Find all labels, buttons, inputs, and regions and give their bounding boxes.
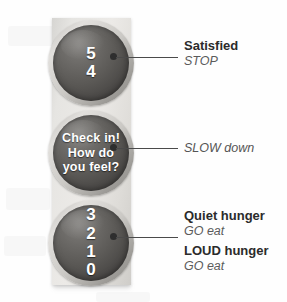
annotation-satisfied: Satisfied STOP <box>184 38 238 69</box>
leader-line-bottom <box>116 237 178 239</box>
lamp-bottom[interactable]: 3 2 1 0 <box>48 200 134 286</box>
lamp-bottom-line-4: 0 <box>86 261 96 279</box>
annotation-quiet-hunger-title: Quiet hunger <box>184 208 265 223</box>
lamp-bottom-line-3: 1 <box>86 243 96 261</box>
lamp-bottom-line-1: 3 <box>86 206 96 224</box>
lamp-bottom-line-2: 2 <box>86 225 96 243</box>
lamp-top-line-1: 5 <box>86 45 96 63</box>
annotation-loud-hunger-title: LOUD hunger <box>184 243 269 258</box>
background-artifact <box>6 188 50 210</box>
background-artifact <box>4 236 46 256</box>
leader-line-top <box>116 57 178 59</box>
lamp-top-line-2: 4 <box>86 63 96 81</box>
lamp-middle-line-3: you feel? <box>63 160 120 175</box>
annotation-loud-hunger-subtitle: GO eat <box>184 259 269 274</box>
lamp-top[interactable]: 5 4 <box>48 20 134 106</box>
annotation-loud-hunger: LOUD hunger GO eat <box>184 243 269 274</box>
traffic-light-figure: 5 4 Check in! How do you feel? 3 2 1 0 S… <box>0 0 287 302</box>
annotation-satisfied-title: Satisfied <box>184 38 238 53</box>
lamp-lens-top: 5 4 <box>53 25 129 101</box>
lamp-middle[interactable]: Check in! How do you feel? <box>48 110 134 196</box>
lamp-middle-line-2: How do <box>68 146 114 161</box>
annotation-quiet-hunger: Quiet hunger GO eat <box>184 208 265 239</box>
annotation-slow-down-text: SLOW down <box>184 141 254 156</box>
background-artifact <box>96 292 150 302</box>
annotation-quiet-hunger-subtitle: GO eat <box>184 224 265 239</box>
leader-line-middle <box>116 148 178 150</box>
annotation-slow-down: SLOW down <box>184 141 254 156</box>
lamp-lens-bottom: 3 2 1 0 <box>53 205 129 281</box>
annotation-satisfied-subtitle: STOP <box>184 54 238 69</box>
lamp-lens-middle: Check in! How do you feel? <box>53 115 129 191</box>
